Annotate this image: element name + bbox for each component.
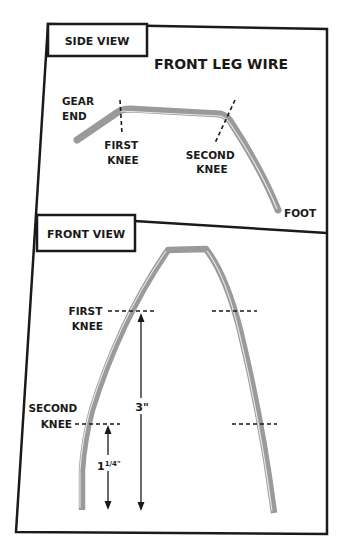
diagram-title: FRONT LEG WIRE	[154, 56, 288, 72]
foot-label: FOOT	[284, 207, 317, 219]
front-view-tab-label: FRONT VIEW	[47, 228, 125, 241]
front-leg-wire-diagram: SIDE VIEW FRONT LEG WIRE GEAR END FIRST …	[0, 0, 344, 554]
dimension-3in-label: 3"	[135, 401, 148, 414]
side-view-tab-label: SIDE VIEW	[65, 35, 130, 48]
